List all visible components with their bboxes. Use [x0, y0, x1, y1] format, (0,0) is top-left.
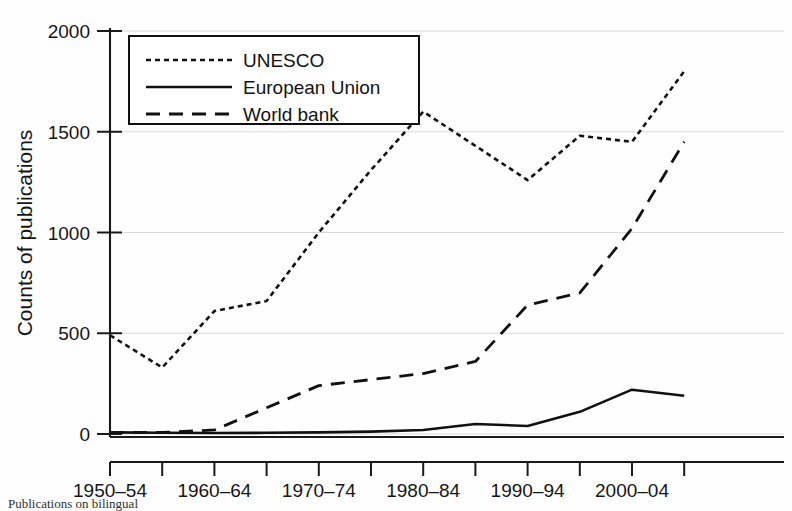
x-tick-marks: [110, 462, 684, 476]
series-line-world-bank: [110, 142, 684, 433]
legend-label-unesco: UNESCO: [243, 50, 324, 71]
y-tick-labels: 0500100015002000: [48, 21, 90, 445]
x-tick-label: 1990–94: [491, 480, 565, 501]
series-lines: [110, 71, 684, 433]
x-axis: [110, 437, 784, 462]
y-tick-label: 0: [79, 424, 90, 445]
y-tick-label: 1500: [48, 122, 90, 143]
y-tick-label: 500: [58, 323, 90, 344]
x-tick-labels: 1950–541960–641970–741980–841990–942000–…: [73, 480, 669, 501]
x-tick-label: 1970–74: [282, 480, 356, 501]
x-tick-label: 2000–04: [595, 480, 669, 501]
figure-page: 0500100015002000 1950–541960–641970–7419…: [0, 0, 792, 511]
legend-label-world-bank: World bank: [243, 104, 339, 125]
figure-caption: Publications on bilingual: [8, 496, 138, 511]
legend-label-european-union: European Union: [243, 77, 380, 98]
line-chart: 0500100015002000 1950–541960–641970–7419…: [0, 0, 792, 511]
x-tick-label: 1980–84: [386, 480, 460, 501]
legend: UNESCOEuropean UnionWorld bank: [129, 36, 419, 125]
series-line-european-union: [110, 390, 684, 433]
y-tick-label: 2000: [48, 21, 90, 42]
x-tick-label: 1960–64: [177, 480, 251, 501]
y-tick-label: 1000: [48, 223, 90, 244]
y-axis-title: Counts of publications: [13, 130, 36, 337]
